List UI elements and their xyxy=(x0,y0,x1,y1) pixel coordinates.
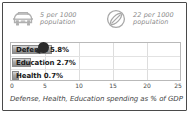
bar-label-education: Education 2.7% xyxy=(16,59,76,67)
x-tick-20: 20 xyxy=(143,82,151,89)
table-row: Health 0.7% xyxy=(11,69,180,81)
x-tick-10: 10 xyxy=(75,82,83,89)
mouse-cursor xyxy=(38,42,49,53)
x-axis: 0 5 10 15 20 25 xyxy=(10,81,181,91)
bar-label-health: Health 0.7% xyxy=(16,72,63,80)
rugby-ball-icon xyxy=(103,8,129,30)
stats-row: 5 per 1000 population 22 per 1000 popula… xyxy=(6,8,183,40)
infographic-panel: 5 per 1000 population 22 per 1000 popula… xyxy=(2,2,187,111)
x-tick-15: 15 xyxy=(109,82,117,89)
panel-inner: 5 per 1000 population 22 per 1000 popula… xyxy=(6,6,183,107)
chart-caption: Defense, Health, Education spending as %… xyxy=(10,95,183,103)
stat-cars-label: 5 per 1000 population xyxy=(40,12,77,27)
x-tick-25: 25 xyxy=(174,82,182,89)
table-row: Education 2.7% xyxy=(11,56,180,69)
x-tick-0: 0 xyxy=(10,82,14,89)
stat-cars: 5 per 1000 population xyxy=(10,8,102,30)
car-icon xyxy=(10,8,36,30)
stat-balls-label: 22 per 1000 population xyxy=(133,12,174,27)
x-tick-5: 5 xyxy=(43,82,47,89)
stat-balls: 22 per 1000 population xyxy=(103,8,174,30)
